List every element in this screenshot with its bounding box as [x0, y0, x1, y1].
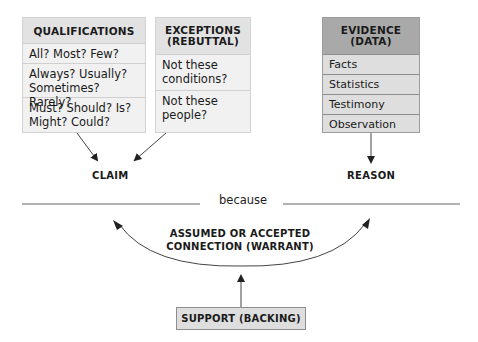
warrant-label: ASSUMED OR ACCEPTED CONNECTION (WARRANT)	[150, 227, 330, 253]
warrant-right-arrowhead	[362, 218, 370, 229]
evidence-row: Observation	[323, 115, 419, 134]
qualifications-header: QUALIFICATIONS	[23, 18, 145, 44]
exceptions-to-claim-arrow	[135, 133, 166, 160]
qualification-row: All? Most? Few?	[23, 44, 145, 64]
qualification-row: Must? Should? Is? Might? Could?	[23, 98, 145, 132]
evidence-row: Facts	[323, 55, 419, 75]
evidence-header: EVIDENCE (DATA)	[323, 18, 419, 55]
support-box: SUPPORT (BACKING)	[176, 307, 306, 330]
evidence-row: Statistics	[323, 75, 419, 95]
because-connector: because	[219, 193, 267, 207]
qualifications-box: QUALIFICATIONS All? Most? Few? Always? U…	[22, 17, 146, 133]
exception-row: Not these people?	[156, 91, 250, 132]
qualifications-to-claim-arrow	[77, 133, 97, 160]
claim-label: CLAIM	[92, 170, 129, 181]
exception-row: Not these conditions?	[156, 55, 250, 91]
evidence-row: Testimony	[323, 95, 419, 115]
warrant-left-arrowhead	[113, 220, 123, 230]
qualification-row: Always? Usually? Sometimes? Rarely?	[23, 64, 145, 98]
exceptions-box: EXCEPTIONS (REBUTTAL) Not these conditio…	[155, 17, 251, 133]
reason-label: REASON	[347, 170, 395, 181]
evidence-box: EVIDENCE (DATA) Facts Statistics Testimo…	[322, 17, 420, 133]
exceptions-header: EXCEPTIONS (REBUTTAL)	[156, 18, 250, 55]
